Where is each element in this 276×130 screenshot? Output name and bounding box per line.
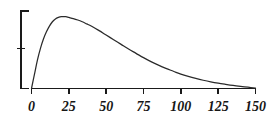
x-axis-group: [32, 89, 256, 94]
x-tick-label: 75: [137, 100, 151, 114]
density-chart: 0255075100125150: [0, 0, 276, 130]
y-axis-group: [17, 11, 29, 89]
x-axis-ticks: [32, 89, 256, 94]
x-tick-label: 0: [28, 100, 35, 114]
y-axis-bracket: [21, 11, 29, 89]
x-tick-label: 25: [62, 100, 76, 114]
density-curve: [32, 17, 256, 89]
x-tick-label: 50: [99, 100, 113, 114]
x-tick-label: 100: [170, 100, 191, 114]
x-tick-label: 150: [245, 100, 266, 114]
x-tick-label: 125: [208, 100, 229, 114]
